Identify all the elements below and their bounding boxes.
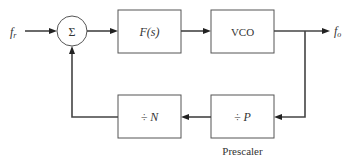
input-label: fr — [10, 25, 17, 40]
summing-junction: Σ — [57, 16, 87, 46]
vco-label: VCO — [231, 26, 254, 38]
prescaler-block: ÷ P Prescaler — [211, 95, 274, 157]
arrow-head-icon — [49, 28, 57, 34]
feedback-branch-line — [281, 31, 305, 117]
pll-block-diagram: fr Σ F(s) VCO fo ÷ P Prescaler ÷ N — [0, 0, 353, 161]
feedback-return-line — [72, 54, 118, 117]
input-signal: fr — [10, 25, 57, 40]
prescaler-caption: Prescaler — [222, 145, 263, 157]
divider-n-label: ÷ N — [141, 110, 160, 124]
arrow-head-icon — [274, 114, 282, 120]
output-label: fo — [334, 24, 341, 39]
sigma-icon: Σ — [69, 25, 76, 39]
arrow-head-icon — [69, 46, 75, 54]
vco-block: VCO — [211, 10, 274, 53]
divider-n-block: ÷ N — [118, 95, 181, 138]
arrow-head-icon — [181, 114, 189, 120]
arrow-head-icon — [322, 28, 330, 34]
prescaler-label: ÷ P — [234, 110, 252, 124]
arrow-head-icon — [110, 28, 118, 34]
arrow-head-icon — [203, 28, 211, 34]
filter-block: F(s) — [118, 10, 181, 53]
filter-label: F(s) — [139, 25, 160, 39]
